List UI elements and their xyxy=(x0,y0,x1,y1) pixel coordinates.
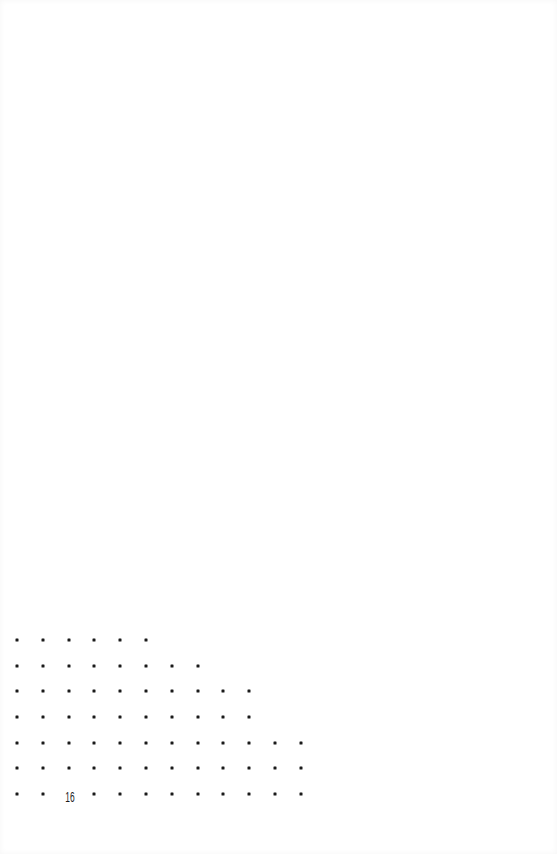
grid-dot xyxy=(41,742,44,745)
grid-dot xyxy=(274,767,277,770)
grid-dot xyxy=(16,690,19,693)
grid-dot xyxy=(41,639,44,642)
grid-dot xyxy=(93,716,96,719)
grid-dot xyxy=(145,665,148,668)
page-number-label: 16 xyxy=(65,790,74,804)
grid-dot xyxy=(222,767,225,770)
grid-dot xyxy=(196,665,199,668)
grid-dot xyxy=(145,690,148,693)
grid-dot xyxy=(41,716,44,719)
grid-dot xyxy=(67,665,70,668)
grid-dot xyxy=(16,793,19,796)
grid-dot xyxy=(145,742,148,745)
grid-dot xyxy=(67,716,70,719)
grid-dot xyxy=(222,793,225,796)
grid-dot xyxy=(67,690,70,693)
grid-dot xyxy=(299,767,302,770)
grid-dot xyxy=(274,793,277,796)
grid-dot xyxy=(196,793,199,796)
grid-dot xyxy=(16,716,19,719)
grid-dot xyxy=(16,639,19,642)
grid-dot xyxy=(222,742,225,745)
grid-dot xyxy=(93,742,96,745)
grid-dot xyxy=(170,665,173,668)
grid-dot xyxy=(119,767,122,770)
grid-dot xyxy=(93,665,96,668)
grid-dot xyxy=(16,742,19,745)
grid-dot xyxy=(41,793,44,796)
grid-dot xyxy=(119,665,122,668)
grid-dot xyxy=(222,690,225,693)
grid-dot xyxy=(67,639,70,642)
grid-dot xyxy=(145,716,148,719)
grid-dot xyxy=(170,716,173,719)
grid-dot xyxy=(41,665,44,668)
grid-dot xyxy=(93,639,96,642)
grid-dot xyxy=(248,767,251,770)
grid-dot xyxy=(274,742,277,745)
grid-dot xyxy=(67,742,70,745)
grid-dot xyxy=(145,793,148,796)
grid-dot xyxy=(119,742,122,745)
grid-dot xyxy=(170,742,173,745)
grid-dot xyxy=(67,767,70,770)
grid-dot xyxy=(196,716,199,719)
grid-dot xyxy=(145,767,148,770)
grid-dot xyxy=(93,690,96,693)
grid-dot xyxy=(41,690,44,693)
grid-dot xyxy=(222,716,225,719)
grid-dot xyxy=(170,793,173,796)
grid-dot xyxy=(196,690,199,693)
grid-dot xyxy=(93,767,96,770)
grid-dot xyxy=(119,716,122,719)
grid-dot xyxy=(170,767,173,770)
grid-dot xyxy=(119,793,122,796)
grid-dot xyxy=(248,716,251,719)
grid-dot xyxy=(248,690,251,693)
grid-dot xyxy=(16,665,19,668)
grid-dot xyxy=(299,793,302,796)
grid-dot xyxy=(299,742,302,745)
grid-dot xyxy=(41,767,44,770)
page-canvas: 16 xyxy=(0,0,557,854)
grid-dot xyxy=(248,742,251,745)
grid-dot xyxy=(196,767,199,770)
grid-dot xyxy=(170,690,173,693)
grid-dot xyxy=(196,742,199,745)
grid-dot xyxy=(248,793,251,796)
grid-dot xyxy=(93,793,96,796)
grid-dot xyxy=(119,690,122,693)
grid-dot xyxy=(145,639,148,642)
grid-dot xyxy=(119,639,122,642)
grid-dot xyxy=(16,767,19,770)
